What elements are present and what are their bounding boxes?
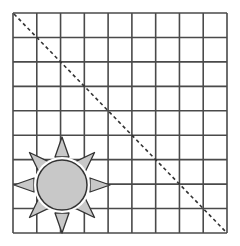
sun-body [37, 160, 87, 210]
sun-ray-icon [55, 137, 69, 157]
grid-diagram [0, 0, 240, 246]
sun-ray-icon [90, 178, 110, 192]
sun-icon [14, 137, 110, 233]
sun-ray-icon [55, 213, 69, 233]
diagram-svg [0, 0, 240, 246]
sun-ray-icon [14, 178, 34, 192]
